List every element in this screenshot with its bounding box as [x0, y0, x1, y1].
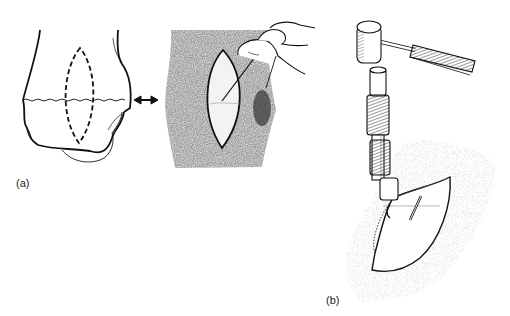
double-arrow-icon	[134, 96, 158, 104]
panel-label-b: (b)	[326, 295, 339, 306]
skin-field-drawing	[346, 140, 495, 302]
punch-instrument-drawing	[367, 67, 398, 200]
skin-incision-drawing	[165, 22, 315, 168]
surgical-illustration	[0, 0, 510, 316]
bone-outline-drawing	[23, 30, 131, 162]
panel-label-a: (a)	[16, 178, 29, 189]
